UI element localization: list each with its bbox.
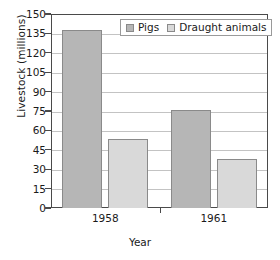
y-axis-tick-mark [45, 52, 51, 53]
y-axis-tick-label: 135 [6, 28, 46, 38]
y-axis-tick-mark [45, 91, 51, 92]
x-axis-tick-mark [160, 208, 161, 213]
y-axis-tick-label: 120 [6, 48, 46, 58]
bar [62, 30, 102, 208]
x-axis-title: Year [0, 236, 280, 248]
legend-swatch-icon [126, 24, 134, 32]
y-axis-tick-label: 0 [6, 203, 46, 213]
bar [108, 139, 148, 208]
y-axis-tick-mark [45, 149, 51, 150]
y-axis-tick-label: 30 [6, 164, 46, 174]
legend-entry: Draught animals [167, 22, 266, 33]
y-axis-tick-label: 60 [6, 125, 46, 135]
y-axis-tick-mark [45, 33, 51, 34]
bar [217, 159, 257, 208]
legend-swatch-icon [167, 24, 175, 32]
legend-entry: Pigs [126, 22, 159, 33]
y-axis-tick-label: 15 [6, 184, 46, 194]
y-axis-tick-mark [45, 130, 51, 131]
y-axis-tick-label: 105 [6, 67, 46, 77]
y-axis-tick-mark [45, 13, 51, 14]
y-axis-tick-mark [45, 207, 51, 208]
chart-legend: PigsDraught animals [120, 19, 272, 36]
legend-label: Draught animals [179, 22, 266, 33]
y-axis-tick-label: 45 [6, 145, 46, 155]
y-axis-tick-label: 150 [6, 9, 46, 19]
bar-chart: Livestock (millions) 0153045607590105120… [0, 0, 280, 260]
y-axis-tick-mark [45, 72, 51, 73]
y-axis-tick-label: 90 [6, 87, 46, 97]
y-axis-tick-mark [45, 169, 51, 170]
y-axis-tick-mark [45, 110, 51, 111]
bar [171, 110, 211, 208]
x-axis-tick-label: 1961 [184, 212, 244, 224]
x-axis-tick-label: 1958 [75, 212, 135, 224]
y-axis-tick-label: 75 [6, 106, 46, 116]
y-axis-tick-mark [45, 188, 51, 189]
legend-label: Pigs [138, 22, 159, 33]
